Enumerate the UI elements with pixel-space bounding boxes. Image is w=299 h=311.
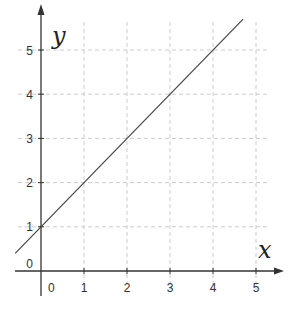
y-axis-arrow-icon [38,4,45,15]
line-chart: 012345012345 x y [0,0,299,311]
y-tick-label: 4 [26,88,33,102]
y-tick-label: 0 [26,257,33,271]
x-axis-label: x [258,236,272,264]
data-series [15,19,243,253]
y-tick-label: 2 [26,176,33,190]
x-tick-label: 2 [124,281,131,295]
series-line [15,19,243,253]
x-tick-label: 0 [48,281,55,295]
x-tick-label: 5 [253,281,260,295]
x-axis-arrow-icon [274,268,284,275]
y-axis-label: y [51,22,66,50]
y-tick-label: 5 [26,44,33,58]
y-tick-label: 1 [26,220,33,234]
x-tick-label: 3 [167,281,174,295]
x-tick-label: 4 [210,281,217,295]
y-tick-label: 3 [26,132,33,146]
grid-lines [18,22,270,290]
tick-labels: 012345012345 [26,44,259,296]
x-tick-label: 1 [81,281,88,295]
